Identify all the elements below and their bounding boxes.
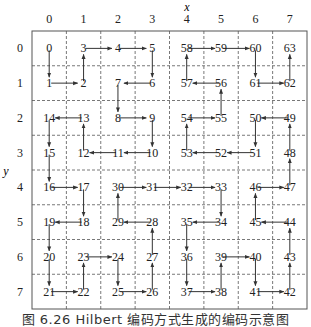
cell-code: 12: [78, 146, 90, 160]
cell-code: 40: [249, 250, 261, 264]
cell-code: 32: [181, 180, 193, 194]
cell-code: 24: [112, 250, 124, 264]
cell-code: 59: [215, 41, 227, 55]
row-label: 2: [17, 111, 23, 125]
cell-code: 42: [284, 285, 296, 299]
cell-code: 52: [215, 146, 227, 160]
cell-code: 21: [43, 285, 55, 299]
cell-code: 6: [149, 76, 155, 90]
row-label: 5: [17, 215, 23, 229]
cell-code: 26: [146, 285, 158, 299]
cell-code: 60: [249, 41, 261, 55]
cell-code: 8: [115, 111, 121, 125]
hilbert-diagram: x y 01234567 01234567 012345678910111213…: [0, 0, 311, 327]
cell-code: 15: [43, 146, 55, 160]
row-label: 4: [17, 180, 23, 194]
column-labels: 01234567: [46, 12, 293, 26]
cell-code: 55: [215, 111, 227, 125]
cell-code: 46: [249, 180, 261, 194]
cell-code: 19: [43, 215, 55, 229]
cell-code: 45: [249, 215, 261, 229]
cell-code: 17: [78, 180, 90, 194]
column-label: 3: [149, 12, 155, 26]
cell-code: 54: [181, 111, 193, 125]
cell-code: 11: [112, 146, 124, 160]
cell-code: 34: [215, 215, 227, 229]
grid: [32, 31, 307, 309]
cell-code: 14: [43, 111, 55, 125]
cell-code: 10: [146, 146, 158, 160]
row-labels: 01234567: [17, 41, 23, 298]
cell-code: 47: [284, 180, 296, 194]
figure-caption: 图 6.26 Hilbert 编码方式生成的编码示意图: [0, 309, 311, 327]
cell-code: 51: [249, 146, 261, 160]
column-label: 7: [287, 12, 293, 26]
column-label: 5: [218, 12, 224, 26]
cell-code: 18: [78, 215, 90, 229]
cell-code: 56: [215, 76, 227, 90]
column-label: 0: [46, 12, 52, 26]
cell-code: 41: [249, 285, 261, 299]
cell-code: 37: [181, 285, 193, 299]
cell-code: 5: [149, 41, 155, 55]
cell-code: 16: [43, 180, 55, 194]
cell-code: 53: [181, 146, 193, 160]
row-label: 7: [17, 285, 23, 299]
cell-code: 61: [249, 76, 261, 90]
row-label: 3: [17, 146, 23, 160]
cell-code: 39: [215, 250, 227, 264]
cell-code: 1: [46, 76, 52, 90]
cell-code: 7: [115, 76, 121, 90]
column-label: 1: [81, 12, 87, 26]
cell-code: 50: [249, 111, 261, 125]
column-label: 6: [252, 12, 258, 26]
cell-code: 25: [112, 285, 124, 299]
cell-code: 48: [284, 146, 296, 160]
cell-code: 2: [81, 76, 87, 90]
cell-code: 0: [46, 41, 52, 55]
cell-code: 33: [215, 180, 227, 194]
cell-code: 31: [146, 180, 158, 194]
cell-code: 9: [149, 111, 155, 125]
column-label: 2: [115, 12, 121, 26]
cell-code: 23: [78, 250, 90, 264]
row-label: 0: [17, 41, 23, 55]
cell-code: 63: [284, 41, 296, 55]
cell-code: 3: [81, 41, 87, 55]
cell-code: 44: [284, 215, 296, 229]
cell-code: 57: [181, 76, 193, 90]
cell-code: 28: [146, 215, 158, 229]
cell-code: 29: [112, 215, 124, 229]
column-label: 4: [184, 12, 190, 26]
cell-code: 35: [181, 215, 193, 229]
cell-code: 22: [78, 285, 90, 299]
cell-code: 43: [284, 250, 296, 264]
cell-code: 27: [146, 250, 158, 264]
cell-code: 30: [112, 180, 124, 194]
y-axis-label: y: [2, 164, 9, 178]
cell-code: 58: [181, 41, 193, 55]
cell-code: 13: [78, 111, 90, 125]
row-label: 6: [17, 250, 23, 264]
cell-code: 38: [215, 285, 227, 299]
cell-code: 49: [284, 111, 296, 125]
cell-code: 36: [181, 250, 193, 264]
cell-code: 20: [43, 250, 55, 264]
cell-code: 4: [115, 41, 121, 55]
row-label: 1: [17, 76, 23, 90]
cell-code: 62: [284, 76, 296, 90]
